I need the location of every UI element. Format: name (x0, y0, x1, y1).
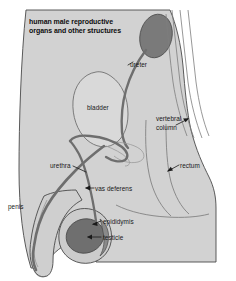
anatomy-figure: human male reproductive organs and other… (0, 0, 236, 281)
label-ureter: ureter (130, 61, 148, 68)
vertebral-line-3 (188, 10, 209, 136)
label-testicle: testicle (103, 234, 124, 241)
label-vertebral-column-line-1: vertebral (156, 115, 181, 122)
label-epididymis: epididymis (103, 218, 134, 226)
label-vertebral-column-line-2: column (156, 124, 177, 131)
label-bladder: bladder (87, 104, 109, 111)
label-vas-deferens: vas deferens (95, 185, 132, 192)
label-penis: penis (8, 203, 24, 211)
anatomy-diagram-svg: human male reproductive organs and other… (0, 0, 236, 281)
label-rectum: rectum (180, 162, 200, 169)
figure-title-line-1: human male reproductive (29, 18, 113, 26)
figure-title-line-2: organs and other structures (29, 27, 121, 35)
label-urethra: urethra (50, 162, 71, 169)
